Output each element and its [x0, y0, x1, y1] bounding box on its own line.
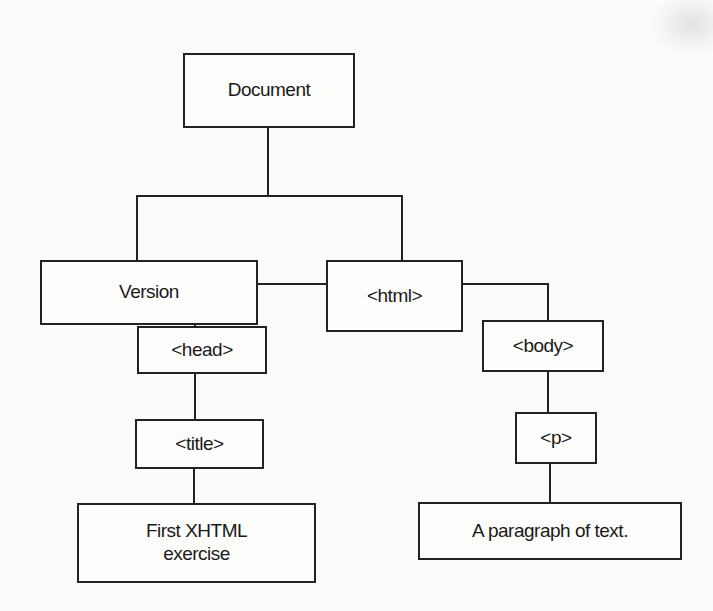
node-version: Version [40, 260, 258, 325]
edge-level1-bar [136, 195, 403, 197]
edge-document-down [267, 127, 269, 197]
node-html: <html> [326, 260, 463, 332]
node-p: <p> [515, 412, 597, 464]
edge-p-to-text [549, 462, 551, 503]
node-title-text: First XHTML exercise [77, 503, 316, 583]
title-text-line2: exercise [163, 543, 230, 566]
node-body: <body> [482, 320, 604, 372]
node-title: <title> [135, 419, 264, 469]
edge-to-version [136, 195, 138, 261]
title-text-line1: First XHTML [146, 520, 247, 543]
node-document: Document [183, 53, 355, 128]
edge-to-body [547, 283, 549, 321]
edge-head-to-title [194, 372, 196, 420]
scan-artifact [643, 0, 713, 60]
edge-body-to-p [547, 370, 549, 413]
node-p-text: A paragraph of text. [418, 502, 682, 560]
node-head: <head> [137, 326, 267, 374]
edge-title-to-text [193, 467, 195, 504]
